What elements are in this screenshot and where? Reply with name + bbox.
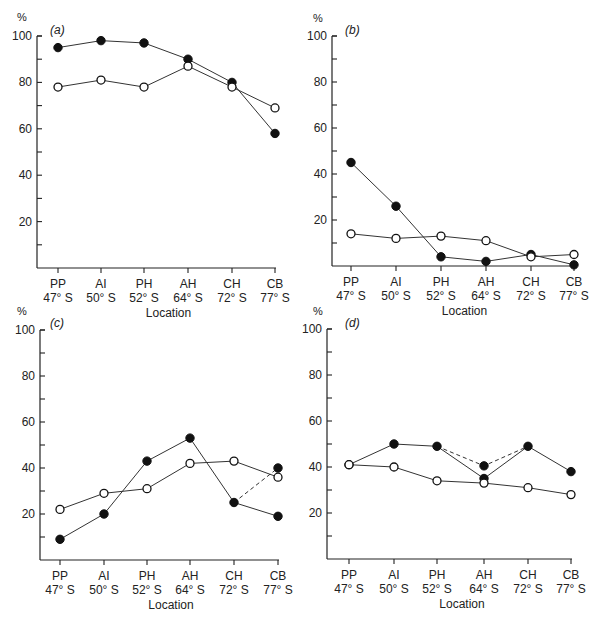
series-line-filled [349, 444, 571, 479]
series-line-filled [58, 41, 275, 134]
panel-c-chart: %(c)20406080100PP47° SAI50° SPH52° SAH64… [15, 305, 293, 612]
y-tick-label: 20 [22, 507, 36, 521]
filled-circle-marker [390, 440, 398, 448]
y-tick-label: 80 [22, 369, 36, 383]
open-circle-marker [482, 237, 490, 245]
x-tick-label-latitude: 50° S [381, 289, 410, 303]
open-circle-marker [274, 473, 282, 481]
open-circle-marker [433, 477, 441, 485]
x-tick-label-latitude: 52° S [422, 582, 451, 596]
filled-circle-marker [567, 467, 575, 475]
x-tick-label-latitude: 72° S [513, 582, 542, 596]
x-tick-label-latitude: 50° S [379, 582, 408, 596]
y-tick-label: 20 [314, 213, 328, 227]
open-circle-marker [392, 234, 400, 242]
panel-title: (a) [50, 23, 65, 37]
open-circle-marker [437, 232, 445, 240]
x-tick-label-latitude: 47° S [43, 291, 72, 305]
filled-circle-marker [570, 261, 578, 269]
x-tick-label-code: PP [341, 568, 357, 582]
y-tick-label: 60 [19, 122, 33, 136]
panel-b-chart: %(b)20406080100PP47° SAI50° SPH52° SAH64… [307, 12, 589, 318]
x-tick-label-code: CH [223, 277, 240, 291]
open-circle-marker [140, 83, 148, 91]
y-tick-label: 80 [314, 75, 328, 89]
y-tick-label: 80 [19, 75, 33, 89]
x-tick-label-code: AI [98, 569, 109, 583]
y-unit-label: % [313, 305, 323, 317]
x-tick-label-code: AI [390, 275, 401, 289]
filled-circle-marker [56, 535, 64, 543]
open-circle-marker [480, 479, 488, 487]
x-tick-label-code: CB [566, 275, 583, 289]
open-circle-marker [184, 62, 192, 70]
open-circle-marker [100, 489, 108, 497]
open-circle-marker [56, 505, 64, 513]
x-tick-label-code: PH [136, 277, 153, 291]
x-tick-label-latitude: 72° S [516, 289, 545, 303]
filled-circle-marker-alternate [274, 464, 282, 472]
open-circle-marker [567, 491, 575, 499]
y-tick-label: 60 [314, 121, 328, 135]
y-unit-label: % [17, 305, 27, 317]
x-tick-label-latitude: 64° S [175, 583, 204, 597]
x-tick-label-code: AH [182, 569, 199, 583]
y-tick-label: 100 [302, 322, 322, 336]
x-tick-label-latitude: 64° S [469, 582, 498, 596]
panel-a-chart: %(a)20406080100PP47° SAI50° SPH52° SAH64… [12, 11, 290, 320]
open-circle-marker [97, 76, 105, 84]
y-unit-label: % [17, 11, 27, 23]
open-circle-marker [524, 484, 532, 492]
open-circle-marker [345, 461, 353, 469]
x-tick-label-code: CB [270, 569, 287, 583]
x-tick-label-latitude: 47° S [334, 582, 363, 596]
open-circle-marker [228, 83, 236, 91]
x-tick-label-latitude: 47° S [336, 289, 365, 303]
filled-circle-marker [433, 442, 441, 450]
x-tick-label-code: CH [522, 275, 539, 289]
filled-circle-marker [392, 202, 400, 210]
series-line-filled [351, 163, 574, 265]
x-tick-label-code: AI [388, 568, 399, 582]
filled-circle-marker [271, 129, 279, 137]
x-tick-label-code: PH [139, 569, 156, 583]
y-tick-label: 40 [22, 461, 36, 475]
panel-title: (c) [50, 316, 64, 330]
x-tick-label-code: PP [343, 275, 359, 289]
filled-circle-marker [54, 43, 62, 51]
y-tick-label: 40 [314, 167, 328, 181]
x-tick-label-latitude: 50° S [89, 583, 118, 597]
open-circle-marker [271, 104, 279, 112]
x-tick-label-code: CB [563, 568, 580, 582]
y-tick-label: 20 [309, 506, 323, 520]
x-tick-label-latitude: 77° S [263, 583, 292, 597]
series-line-open [60, 461, 278, 509]
y-tick-label: 80 [309, 368, 323, 382]
x-tick-label-latitude: 72° S [217, 291, 246, 305]
y-tick-label: 40 [19, 168, 33, 182]
filled-circle-marker [274, 512, 282, 520]
x-tick-label-latitude: 52° S [426, 289, 455, 303]
x-tick-label-latitude: 52° S [132, 583, 161, 597]
x-tick-label-code: AI [95, 277, 106, 291]
dashed-alternate-line [234, 468, 278, 503]
filled-circle-marker [97, 36, 105, 44]
filled-circle-marker [100, 510, 108, 518]
open-circle-marker [54, 83, 62, 91]
panel-title: (b) [345, 23, 360, 37]
series-line-filled [60, 438, 278, 539]
open-circle-marker [186, 459, 194, 467]
panel-title: (d) [345, 316, 360, 330]
filled-circle-marker [524, 442, 532, 450]
x-axis-title: Location [146, 306, 191, 320]
y-tick-label: 60 [22, 415, 36, 429]
y-tick-label: 20 [19, 215, 33, 229]
x-tick-label-latitude: 77° S [556, 582, 585, 596]
x-tick-label-latitude: 72° S [219, 583, 248, 597]
x-tick-label-code: PH [433, 275, 450, 289]
open-circle-marker [570, 251, 578, 259]
x-tick-label-code: AH [476, 568, 493, 582]
x-tick-label-code: AH [478, 275, 495, 289]
y-tick-label: 100 [12, 29, 32, 43]
x-tick-label-latitude: 64° S [471, 289, 500, 303]
